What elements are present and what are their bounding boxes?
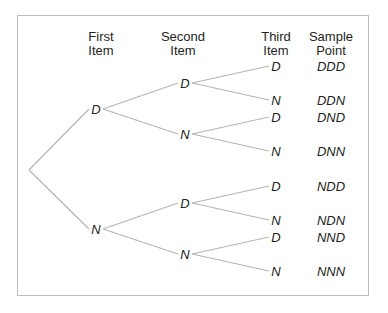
edge-l2-l3-6 — [192, 237, 269, 254]
edge-l2-l3-2 — [192, 117, 269, 134]
header-sample-line1: Sample — [309, 29, 353, 44]
edge-l2-l3-0 — [192, 66, 269, 83]
header-sample-line2: Point — [316, 43, 346, 58]
sample-point-2: DND — [317, 110, 345, 125]
node-level3-4: D — [271, 179, 280, 194]
edge-l2-l3-4 — [192, 186, 269, 203]
edge-l2-l3-5 — [192, 203, 269, 220]
node-level2-2: D — [180, 196, 189, 211]
edge-root-0 — [29, 109, 89, 170]
tree-edges — [29, 66, 269, 271]
sample-point-4: NDD — [317, 179, 345, 194]
sample-point-0: DDD — [317, 59, 345, 74]
edge-l2-l3-1 — [192, 83, 269, 100]
edge-l2-l3-7 — [192, 254, 269, 271]
sample-point-7: NNN — [317, 264, 346, 279]
node-level3-6: D — [271, 230, 280, 245]
edge-l2-l3-3 — [192, 134, 269, 151]
node-level1-0: D — [91, 102, 100, 117]
header-second-line2: Item — [170, 43, 195, 58]
node-level2-0: D — [180, 76, 189, 91]
header-first-line1: First — [88, 29, 114, 44]
edge-root-1 — [29, 170, 89, 229]
edge-l1-l2-0 — [103, 83, 178, 109]
sample-point-1: DDN — [317, 93, 346, 108]
sample-point-6: NND — [317, 230, 345, 245]
sample-point-5: NDN — [317, 213, 346, 228]
node-level3-7: N — [271, 264, 281, 279]
node-level3-3: N — [271, 144, 281, 159]
edge-l1-l2-1 — [103, 109, 178, 134]
header-first-line2: Item — [88, 43, 113, 58]
header-third-line2: Item — [263, 43, 288, 58]
tree-diagram: First Item Second Item Third Item Sample… — [0, 0, 388, 313]
edge-l1-l2-2 — [103, 203, 178, 229]
sample-point-3: DNN — [317, 144, 346, 159]
node-level3-5: N — [271, 213, 281, 228]
node-level3-1: N — [271, 93, 281, 108]
header-second-line1: Second — [161, 29, 205, 44]
node-level3-0: D — [271, 59, 280, 74]
header-third-line1: Third — [261, 29, 291, 44]
node-level3-2: D — [271, 110, 280, 125]
node-level2-3: N — [180, 247, 190, 262]
node-level2-1: N — [180, 127, 190, 142]
node-level1-1: N — [91, 222, 101, 237]
edge-l1-l2-3 — [103, 229, 178, 254]
